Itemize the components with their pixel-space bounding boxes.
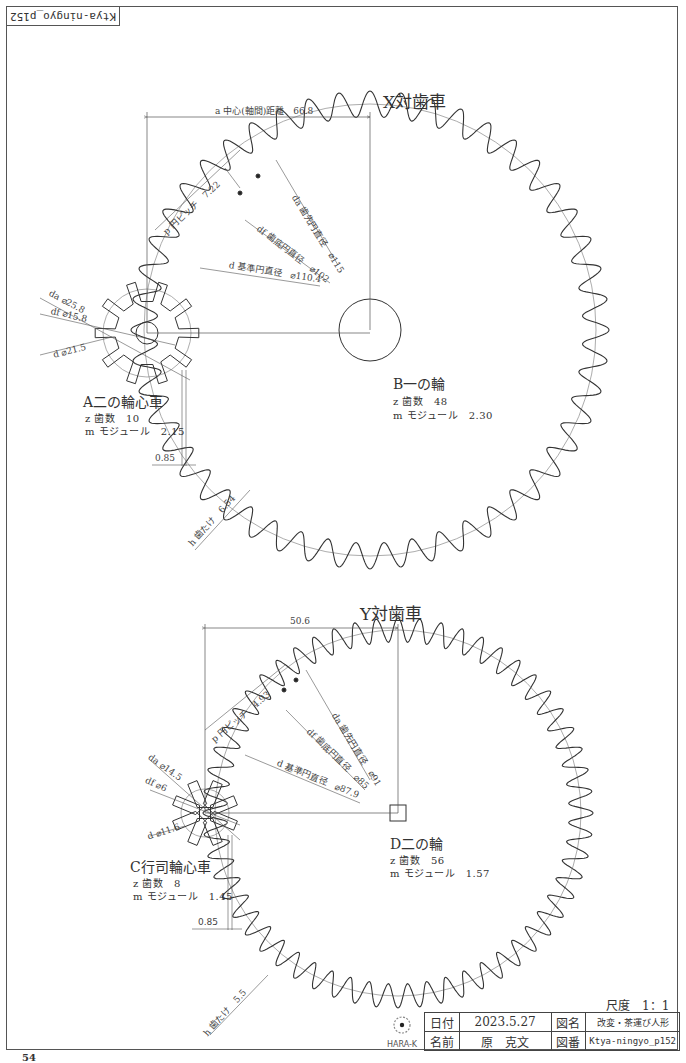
wheel-d-module: m モジュール 1.57: [390, 865, 490, 880]
gear-drawing-canvas: [0, 0, 686, 1063]
gear-pair-y-title: Y対歯車: [360, 600, 422, 625]
wheel-b-module: m モジュール 2.30: [393, 407, 493, 422]
drawing-number-label: 図番: [551, 1032, 586, 1051]
gear-pair-y: [150, 618, 593, 1035]
author-label: 名前: [425, 1032, 460, 1051]
y-center-distance-label: 50.6: [290, 616, 310, 626]
drawing-name-label: 図名: [551, 1013, 586, 1032]
gear-pair-x-title: X対歯車: [383, 88, 446, 113]
gear-pair-x: [40, 91, 609, 569]
x-center-distance-label: a 中心(軸間)距離 66.8: [215, 104, 313, 117]
wheel-b-teeth: z 歯数 48: [393, 393, 448, 408]
wheel-d-name: D二の輪: [390, 833, 443, 853]
logo-text: HARA-K: [382, 1040, 422, 1049]
author-value: 原 克文: [459, 1032, 551, 1051]
gear-logo-icon: [390, 1014, 414, 1036]
scale-label: 尺度 1：1: [606, 996, 669, 1013]
page-number: 54: [22, 1052, 36, 1063]
pinion-c-name: C行司輪心車: [130, 856, 211, 876]
wheel-b-name: B一の輪: [393, 373, 445, 393]
pinion-c-module: m モジュール 1.45: [133, 888, 233, 903]
y-clearance-label: 0.85: [198, 917, 218, 927]
drawing-name-value: 改変・茶運び人形: [586, 1013, 680, 1032]
title-block: 日付 2023.5.27 図名 改変・茶運び人形 名前 原 克文 図番 Ktya…: [424, 1012, 680, 1051]
hara-k-logo: HARA-K: [382, 1014, 422, 1050]
x-clearance-label: 0.85: [155, 453, 175, 463]
pinion-a-module: m モジュール 2.15: [85, 423, 185, 438]
date-value: 2023.5.27: [459, 1013, 551, 1032]
drawing-number-value: Ktya-ningyo_p152: [586, 1032, 680, 1051]
date-label: 日付: [425, 1013, 460, 1032]
pinion-a-name: A二の輪心車: [83, 391, 163, 411]
